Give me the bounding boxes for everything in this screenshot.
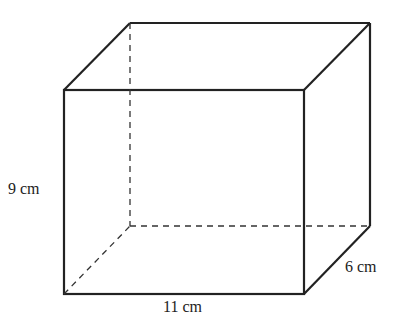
top-right-edge [304, 23, 370, 90]
prism-diagram: 9 cm 11 cm 6 cm [0, 0, 405, 331]
front-face [64, 90, 304, 294]
hidden-bottom-left-depth-edge [64, 226, 130, 294]
top-left-edge [64, 23, 130, 90]
depth-label: 6 cm [345, 258, 377, 276]
prism-drawing [0, 0, 405, 331]
height-label: 9 cm [8, 180, 40, 198]
length-label: 11 cm [163, 298, 202, 316]
